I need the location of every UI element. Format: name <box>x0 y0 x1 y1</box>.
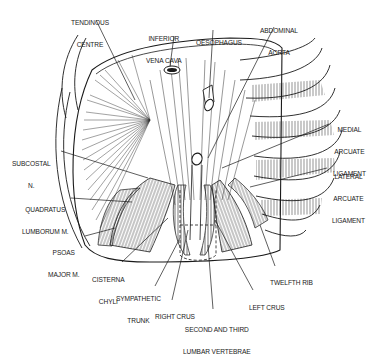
label-twelfth-rib: TWELFTH RIB <box>270 264 313 301</box>
label-tendinous-centre: TENDINOUS CENTRE <box>71 4 109 63</box>
left-posterior-muscles <box>98 178 175 252</box>
label-oesophagus: OESOPHAGUS <box>196 24 242 61</box>
right-posterior-muscles <box>212 178 268 252</box>
label-second-third-lumbar-vertebrae: SECOND AND THIRD LUMBAR VERTEBRAE <box>183 311 251 358</box>
label-abdominal-aorta: ABDOMINAL AORTA <box>260 12 298 71</box>
crura <box>173 185 215 255</box>
label-lateral-arcuate-ligament: LATERAL ARCUATE LIGAMENT <box>332 158 365 239</box>
label-inferior-vena-cava: INFERIOR VENA CAVA <box>146 20 182 79</box>
intercostal-hatching <box>252 80 336 216</box>
label-psoas-major: PSOAS MAJOR M. <box>48 234 79 293</box>
oesophagus-tube <box>203 85 215 112</box>
